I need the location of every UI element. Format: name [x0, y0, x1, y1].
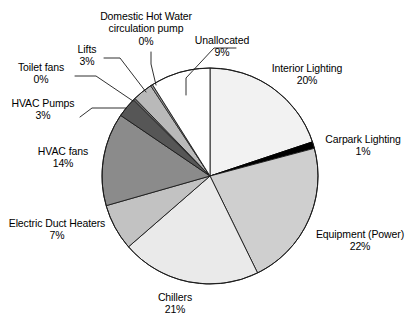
label-hvac-pumps-value: 3% — [6, 109, 80, 121]
label-hvac-fans: HVAC fans 14% — [30, 145, 96, 170]
label-interior-lighting: Interior Lighting 20% — [262, 62, 352, 87]
label-equipment-power-name: Equipment (Power) — [308, 228, 412, 240]
label-toilet-fans-value: 0% — [8, 73, 74, 85]
label-interior-lighting-value: 20% — [262, 74, 352, 86]
label-hvac-fans-name: HVAC fans — [30, 145, 96, 157]
leader-line-toilet-fans — [75, 76, 133, 101]
label-equipment-power: Equipment (Power) 22% — [308, 228, 412, 253]
label-electric-duct-heaters-value: 7% — [2, 229, 112, 241]
label-carpark-lighting-value: 1% — [314, 145, 412, 157]
label-electric-duct-heaters: Electric Duct Heaters 7% — [2, 217, 112, 242]
label-hvac-pumps: HVAC Pumps 3% — [6, 97, 80, 122]
label-hvac-fans-value: 14% — [30, 157, 96, 169]
label-unallocated-name: Unallocated — [184, 34, 260, 46]
label-electric-duct-heaters-name: Electric Duct Heaters — [2, 217, 112, 229]
leader-line-hvac-pumps — [80, 108, 126, 117]
leader-line-lifts — [104, 58, 146, 92]
label-chillers-value: 21% — [140, 303, 210, 315]
label-domestic-hot-water-pump-name-line2: circulation pump — [80, 22, 212, 34]
label-domestic-hot-water-pump-name-line1: Domestic Hot Water — [80, 10, 212, 22]
pie-chart: Domestic Hot Water circulation pump 0% U… — [0, 0, 412, 326]
label-chillers: Chillers 21% — [140, 291, 210, 316]
label-carpark-lighting: Carpark Lighting 1% — [314, 133, 412, 158]
label-hvac-pumps-name: HVAC Pumps — [6, 97, 80, 109]
pie-slices — [102, 68, 318, 284]
label-lifts-name: Lifts — [66, 43, 108, 55]
label-toilet-fans-name: Toilet fans — [8, 61, 74, 73]
leader-line-domestic-hot-water-pump — [151, 52, 156, 85]
label-interior-lighting-name: Interior Lighting — [262, 62, 352, 74]
label-unallocated: Unallocated 9% — [184, 34, 260, 59]
label-toilet-fans: Toilet fans 0% — [8, 61, 74, 86]
label-chillers-name: Chillers — [140, 291, 210, 303]
label-unallocated-value: 9% — [184, 46, 260, 58]
label-equipment-power-value: 22% — [308, 240, 412, 252]
label-carpark-lighting-name: Carpark Lighting — [314, 133, 412, 145]
